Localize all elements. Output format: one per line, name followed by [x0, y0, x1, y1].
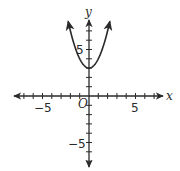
- x-tick-label-neg5: −5: [34, 101, 52, 115]
- origin-label: O: [78, 97, 88, 111]
- x-tick-label-pos5: 5: [131, 101, 139, 115]
- y-tick-label-pos5: 5: [76, 43, 84, 57]
- x-axis-label: x: [166, 89, 173, 103]
- coordinate-plane: x y O −5 5 5 −5: [0, 0, 180, 171]
- y-tick-label-neg5: −5: [68, 137, 86, 151]
- y-axis-label: y: [84, 5, 92, 19]
